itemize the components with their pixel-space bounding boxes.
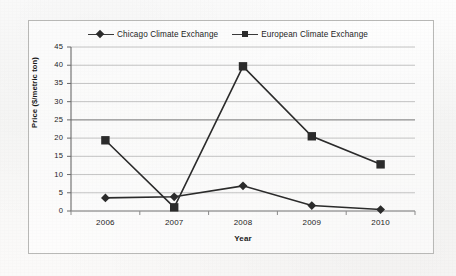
y-tick-label: 10	[43, 170, 63, 179]
x-tick-label: 2008	[223, 218, 263, 227]
y-tick-label: 15	[43, 151, 63, 160]
y-tick-label: 20	[43, 133, 63, 142]
x-axis-title: Year	[71, 234, 415, 243]
data-point-marker	[376, 205, 385, 214]
x-tick-label: 2009	[292, 218, 332, 227]
y-tickmarks	[67, 47, 71, 211]
data-point-marker	[170, 203, 178, 211]
data-point-marker	[308, 132, 316, 140]
x-tickmarks	[71, 211, 415, 215]
data-point-marker	[101, 193, 110, 202]
y-tick-label: 25	[43, 115, 63, 124]
x-tick-label: 2010	[361, 218, 401, 227]
data-point-marker	[376, 160, 384, 168]
y-axis-title: Price ($/metric ton)	[30, 45, 39, 141]
x-tick-label: 2006	[85, 218, 125, 227]
x-tick-label: 2007	[154, 218, 194, 227]
data-point-marker	[101, 136, 109, 144]
y-tick-label: 45	[43, 42, 63, 51]
data-point-marker	[239, 62, 247, 70]
data-point-marker	[307, 201, 316, 210]
y-tick-label: 0	[43, 206, 63, 215]
y-tick-label: 35	[43, 78, 63, 87]
data-point-marker	[239, 181, 248, 190]
y-tick-label: 5	[43, 188, 63, 197]
y-tick-label: 30	[43, 97, 63, 106]
y-tick-label: 40	[43, 60, 63, 69]
